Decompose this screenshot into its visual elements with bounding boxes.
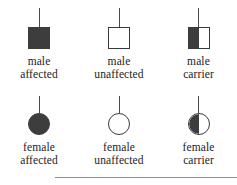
caption-line-2: carrier (183, 154, 215, 167)
connector-line-icon (119, 96, 120, 113)
filled-circle-icon (28, 113, 50, 135)
legend-entry-female-carrier: female carrier (160, 96, 237, 166)
legend-entry-male-unaffected: male unaffected (78, 8, 160, 80)
caption-line-1: female (183, 141, 215, 154)
half-filled-square-icon (188, 27, 210, 49)
caption-line-1: male (20, 55, 58, 68)
caption-line-2: unaffected (94, 68, 143, 81)
legend-caption-female-carrier: female carrier (183, 141, 215, 166)
connector-line-icon (119, 8, 120, 27)
legend-entry-male-affected: male affected (0, 8, 78, 80)
caption-line-2: affected (20, 68, 58, 81)
caption-line-2: unaffected (94, 154, 143, 167)
legend-caption-male-affected: male affected (20, 55, 58, 80)
legend-row-female: female affected female unaffected female… (0, 96, 237, 166)
caption-line-1: female (94, 141, 143, 154)
legend-entry-female-unaffected: female unaffected (78, 96, 160, 166)
empty-circle-icon (108, 113, 130, 135)
connector-line-icon (39, 8, 40, 27)
caption-line-1: male (94, 55, 143, 68)
connector-line-icon (39, 96, 40, 113)
pedigree-legend-figure: male affected male unaffected male carri… (0, 0, 237, 185)
legend-caption-female-unaffected: female unaffected (94, 141, 143, 166)
half-filled-circle-icon (188, 113, 210, 135)
legend-entry-female-affected: female affected (0, 96, 78, 166)
caption-line-2: affected (20, 154, 58, 167)
connector-line-icon (198, 96, 199, 113)
legend-caption-male-unaffected: male unaffected (94, 55, 143, 80)
connector-line-icon (198, 8, 199, 27)
legend-caption-male-carrier: male carrier (183, 55, 214, 80)
caption-line-1: male (183, 55, 214, 68)
empty-square-icon (108, 27, 130, 49)
filled-square-icon (28, 27, 50, 49)
legend-entry-male-carrier: male carrier (160, 8, 237, 80)
legend-row-male: male affected male unaffected male carri… (0, 8, 237, 80)
caption-line-1: female (20, 141, 58, 154)
legend-caption-female-affected: female affected (20, 141, 58, 166)
caption-line-2: carrier (183, 68, 214, 81)
bottom-divider (55, 177, 237, 178)
